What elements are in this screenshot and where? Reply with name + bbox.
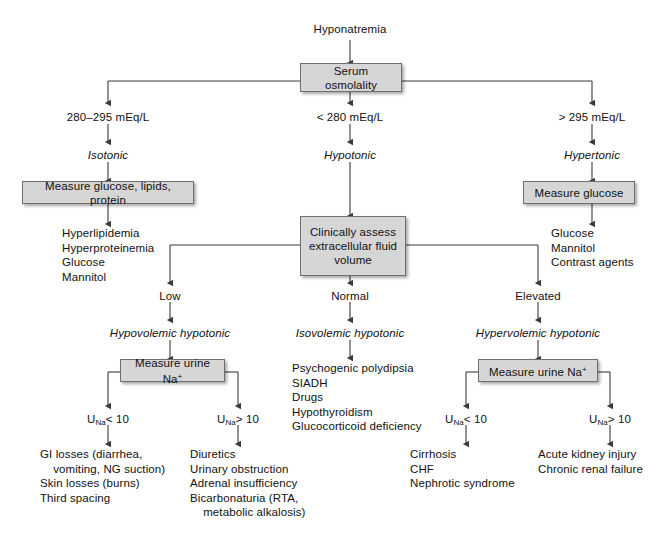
- una-subscript-left-gt: Na: [225, 418, 235, 427]
- branch-label-osm-isotonic-value: 280–295 mEq/L: [67, 110, 150, 124]
- node-clinically-assess-ecf-volume[interactable]: Clinically assess extracellular fluid vo…: [300, 216, 406, 276]
- node-measure-urine-na-left-label: Measure urine Na: [135, 357, 210, 385]
- una-subscript-right-gt: Na: [597, 418, 607, 427]
- list-isotonic-causes: Hyperlipidemia Hyperproteinemia Glucose …: [62, 226, 154, 284]
- node-measure-glucose-label: Measure glucose: [528, 186, 629, 200]
- una-subscript-right-lt: Na: [453, 418, 463, 427]
- una-value-left-gt: > 10: [236, 413, 259, 425]
- branch-label-una-gt10-right: UNa> 10: [589, 412, 631, 430]
- list-isovolemic-causes: Psychogenic polydipsia SIADH Drugs Hypot…: [292, 361, 422, 434]
- node-measure-urine-na-left[interactable]: Measure urine Na+: [120, 359, 225, 382]
- node-measure-urine-na-right-label: Measure urine Na: [489, 366, 582, 378]
- branch-label-volume-low: Low: [159, 289, 180, 303]
- branch-label-hypovolemic-hypotonic: Hypovolemic hypotonic: [110, 326, 230, 340]
- list-hypovolemic-low-una: GI losses (diarrhea, vomiting, NG suctio…: [40, 447, 165, 505]
- list-hypertonic-causes: Glucose Mannitol Contrast agents: [551, 226, 634, 270]
- branch-label-isotonic: Isotonic: [88, 148, 128, 162]
- node-serum-osmolality-label: Serum osmolality: [301, 64, 401, 92]
- una-subscript-left-lt: Na: [95, 418, 105, 427]
- node-measure-glucose[interactable]: Measure glucose: [523, 181, 635, 204]
- branch-label-volume-elevated: Elevated: [515, 289, 561, 303]
- branch-label-hypertonic: Hypertonic: [564, 148, 620, 162]
- branch-label-una-lt10-left: UNa< 10: [87, 412, 129, 430]
- na-plus-superscript-left: +: [178, 372, 183, 381]
- list-hypervolemic-high-una: Acute kidney injury Chronic renal failur…: [538, 447, 643, 476]
- list-hypervolemic-low-una: Cirrhosis CHF Nephrotic syndrome: [410, 447, 515, 491]
- branch-label-isovolemic-hypotonic: Isovolemic hypotonic: [296, 326, 405, 340]
- una-value-left-lt: < 10: [106, 413, 129, 425]
- node-clinically-assess-ecf-volume-label: Clinically assess extracellular fluid vo…: [303, 225, 403, 267]
- una-value-right-lt: < 10: [464, 413, 487, 425]
- node-measure-glucose-lipids-protein[interactable]: Measure glucose, lipids, protein: [22, 181, 194, 204]
- root-label-hyponatremia: Hyponatremia: [314, 22, 387, 36]
- una-value-right-gt: > 10: [608, 413, 631, 425]
- branch-label-volume-normal: Normal: [331, 289, 369, 303]
- node-measure-glucose-lipids-protein-label: Measure glucose, lipids, protein: [23, 179, 193, 207]
- na-plus-superscript-right: +: [582, 365, 587, 374]
- list-hypovolemic-high-una: Diuretics Urinary obstruction Adrenal in…: [190, 447, 306, 520]
- node-measure-urine-na-right[interactable]: Measure urine Na+: [478, 359, 598, 382]
- branch-label-hypotonic: Hypotonic: [324, 148, 376, 162]
- node-serum-osmolality[interactable]: Serum osmolality: [300, 63, 402, 92]
- branch-label-osm-hypotonic-value: < 280 mEq/L: [317, 110, 384, 124]
- branch-label-una-gt10-left: UNa> 10: [217, 412, 259, 430]
- branch-label-osm-hypertonic-value: > 295 mEq/L: [559, 110, 626, 124]
- hyponatremia-flowchart: Hyponatremia Serum osmolality Measure gl…: [0, 0, 668, 534]
- branch-label-hypervolemic-hypotonic: Hypervolemic hypotonic: [476, 326, 600, 340]
- branch-label-una-lt10-right: UNa< 10: [445, 412, 487, 430]
